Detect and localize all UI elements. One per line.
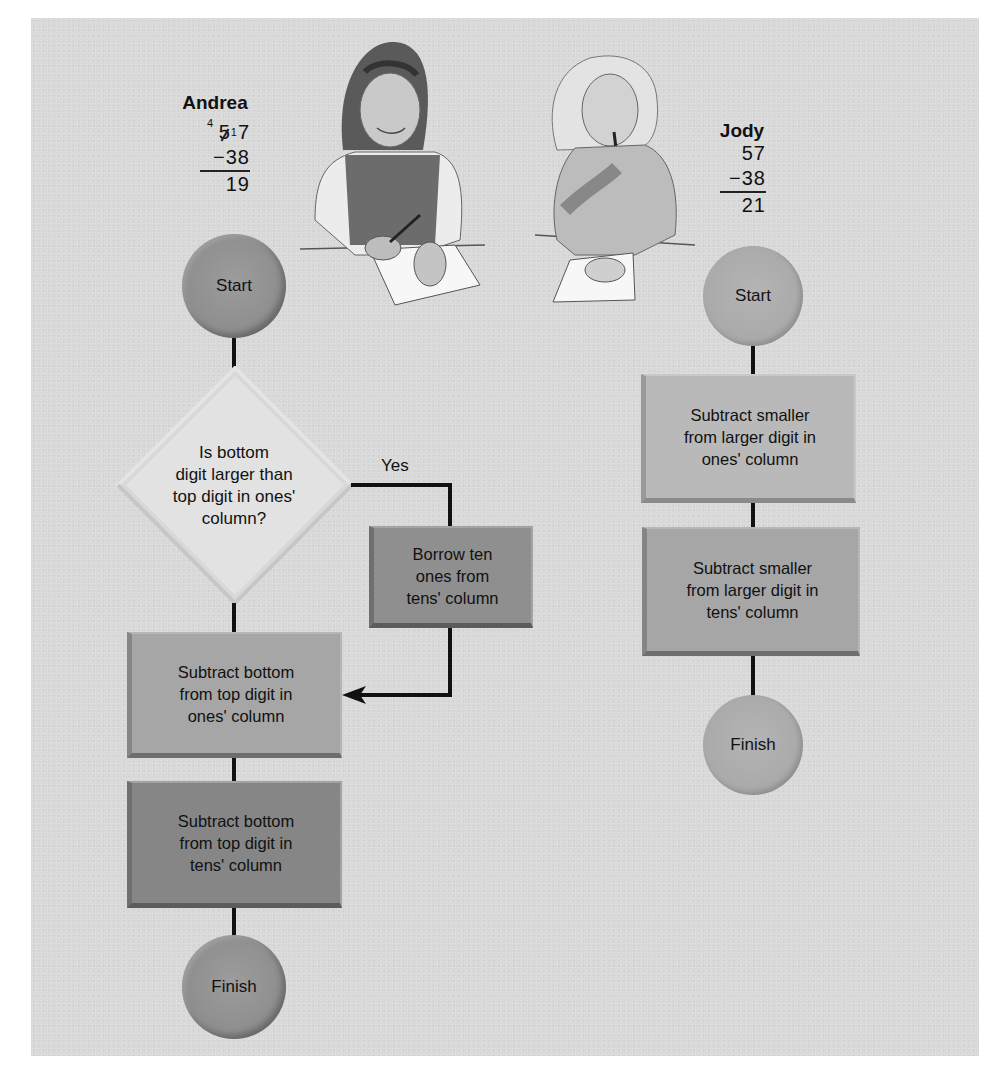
connector	[751, 503, 755, 528]
andrea-finish-node: Finish	[182, 935, 286, 1039]
andrea-subtract-ones-box: Subtract bottom from top digit in ones' …	[127, 632, 342, 758]
ones-mark: 1	[231, 126, 238, 138]
crossed-tens-digit: 5	[219, 121, 231, 143]
jody-drawing	[552, 56, 676, 302]
andrea-start-node: Start	[182, 234, 286, 338]
andrea-problem-bottom: −38	[200, 145, 250, 172]
connector	[232, 908, 236, 936]
andrea-drawing	[315, 42, 480, 305]
jody-subtract-ones-box: Subtract smaller from larger digit in on…	[641, 374, 856, 503]
andrea-problem-top: 4 517	[200, 120, 250, 145]
connector	[751, 656, 755, 697]
andrea-problem: 4 517 −38 19	[200, 120, 250, 197]
jody-finish-node: Finish	[703, 695, 803, 795]
yes-connector-h	[351, 483, 452, 487]
yes-connector-v	[448, 483, 452, 527]
connector	[232, 758, 236, 782]
arrowhead-icon	[342, 686, 366, 704]
connector	[232, 603, 236, 633]
andrea-problem-result: 19	[200, 172, 250, 197]
connector	[751, 346, 755, 375]
return-connector-h	[360, 693, 452, 697]
andrea-subtract-tens-box: Subtract bottom from top digit in tens' …	[127, 781, 342, 908]
andrea-borrow-box: Borrow ten ones from tens' column	[369, 526, 533, 628]
borrow-mark: 4	[207, 111, 214, 136]
andrea-decision-text: Is bottom digit larger than top digit in…	[146, 442, 322, 530]
jody-name: Jody	[712, 120, 772, 142]
yes-label: Yes	[381, 456, 409, 476]
jody-subtract-tens-box: Subtract smaller from larger digit in te…	[642, 527, 860, 656]
girls-illustration	[295, 20, 695, 310]
return-connector-v	[448, 628, 452, 697]
jody-problem-top: 57	[720, 141, 766, 166]
jody-problem-bottom: −38	[720, 166, 766, 193]
jody-start-node: Start	[703, 246, 803, 346]
andrea-name: Andrea	[180, 92, 250, 114]
jody-problem-result: 21	[720, 193, 766, 218]
jody-problem: 57 −38 21	[720, 141, 766, 218]
